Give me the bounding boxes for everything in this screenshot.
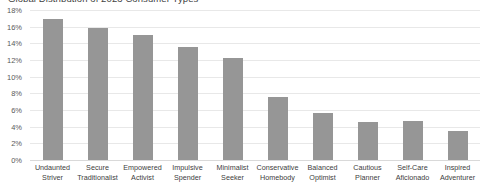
x-axis-label-line: Conservative xyxy=(256,163,299,173)
bar xyxy=(133,35,153,160)
y-axis-tick-label: 14% xyxy=(0,39,22,48)
bar xyxy=(43,19,63,160)
x-axis-category-label: UndauntedStriver xyxy=(30,163,75,182)
x-axis-label-line: Traditionalist xyxy=(76,173,119,183)
x-axis-category-label: Self-CareAficionado xyxy=(390,163,435,182)
bar xyxy=(178,47,198,160)
bar-slot xyxy=(300,10,345,160)
bar xyxy=(358,122,378,160)
x-axis-label-line: Cautious xyxy=(346,163,389,173)
x-axis-label-line: Secure xyxy=(76,163,119,173)
chart-title: Global Distribution of 2023 Consumer Typ… xyxy=(8,0,198,4)
x-axis-label-line: Homebody xyxy=(256,173,299,183)
bar-slot xyxy=(255,10,300,160)
x-axis-label-line: Spender xyxy=(166,173,209,183)
y-axis-tick-label: 6% xyxy=(0,106,22,115)
x-axis-label-line: Seeker xyxy=(211,173,254,183)
x-axis-label-line: Minimalist xyxy=(211,163,254,173)
x-axis-category-label: InspiredAdventurer xyxy=(435,163,480,182)
bar-slot xyxy=(435,10,480,160)
x-axis-label-line: Activist xyxy=(121,173,164,183)
bar-series xyxy=(30,10,480,160)
bar xyxy=(448,131,468,160)
x-axis-label-line: Striver xyxy=(31,173,74,183)
y-axis-tick-label: 8% xyxy=(0,89,22,98)
bar-slot xyxy=(120,10,165,160)
x-axis-category-label: CautiousPlanner xyxy=(345,163,390,182)
plot-area: 18%16%14%12%10%8%6%4%2%0% xyxy=(30,10,480,160)
x-axis-label-line: Empowered xyxy=(121,163,164,173)
x-axis-label-line: Balanced xyxy=(301,163,344,173)
bar xyxy=(268,97,288,160)
bar xyxy=(313,113,333,161)
y-axis-tick-label: 10% xyxy=(0,72,22,81)
bar xyxy=(223,58,243,160)
x-axis-labels: UndauntedStriverSecureTraditionalistEmpo… xyxy=(30,163,480,182)
y-axis-tick-label: 18% xyxy=(0,6,22,15)
x-axis-label-line: Adventurer xyxy=(436,173,479,183)
x-axis-category-label: BalancedOptimist xyxy=(300,163,345,182)
y-axis-tick-label: 2% xyxy=(0,139,22,148)
bar-slot xyxy=(30,10,75,160)
y-axis-tick-label: 12% xyxy=(0,56,22,65)
x-axis-label-line: Aficionado xyxy=(391,173,434,183)
bar-slot xyxy=(345,10,390,160)
x-axis-category-label: ImpulsiveSpender xyxy=(165,163,210,182)
bar-chart: Global Distribution of 2023 Consumer Typ… xyxy=(0,0,484,196)
axis-baseline xyxy=(30,160,480,161)
bar xyxy=(88,28,108,160)
x-axis-category-label: MinimalistSeeker xyxy=(210,163,255,182)
bar-slot xyxy=(390,10,435,160)
x-axis-category-label: EmpoweredActivist xyxy=(120,163,165,182)
x-axis-label-line: Impulsive xyxy=(166,163,209,173)
x-axis-category-label: SecureTraditionalist xyxy=(75,163,120,182)
x-axis-label-line: Self-Care xyxy=(391,163,434,173)
bar-slot xyxy=(210,10,255,160)
x-axis-label-line: Inspired xyxy=(436,163,479,173)
bar-slot xyxy=(165,10,210,160)
bar xyxy=(403,121,423,160)
bar-slot xyxy=(75,10,120,160)
y-axis-tick-label: 4% xyxy=(0,122,22,131)
x-axis-label-line: Undaunted xyxy=(31,163,74,173)
y-axis-tick-label: 16% xyxy=(0,22,22,31)
x-axis-label-line: Optimist xyxy=(301,173,344,183)
x-axis-label-line: Planner xyxy=(346,173,389,183)
y-axis-tick-label: 0% xyxy=(0,156,22,165)
x-axis-category-label: ConservativeHomebody xyxy=(255,163,300,182)
